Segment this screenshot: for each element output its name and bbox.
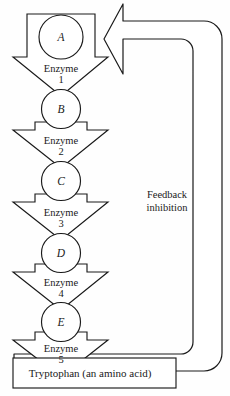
enzyme-1-name: Enzyme	[44, 63, 79, 74]
metabolite-label-b: B	[57, 103, 64, 115]
metabolite-label-a: A	[56, 31, 65, 43]
metabolite-label-c: C	[57, 175, 65, 187]
metabolite-label-e: E	[56, 316, 64, 328]
enzyme-2-name: Enzyme	[44, 135, 79, 146]
tryptophan-label: Tryptophan (an amino acid)	[29, 367, 152, 380]
pathway-svg-canvas: A B C D E Enzyme 1 Enzyme 2 Enzyme 3 Enz…	[0, 0, 230, 396]
enzyme-5-number: 5	[58, 354, 63, 365]
enzyme-3-name: Enzyme	[44, 207, 79, 218]
metabolite-label-d: D	[56, 247, 66, 259]
enzyme-3-number: 3	[58, 218, 63, 229]
enzyme-4-name: Enzyme	[44, 277, 79, 288]
pathway-diagram: A B C D E Enzyme 1 Enzyme 2 Enzyme 3 Enz…	[0, 0, 230, 396]
enzyme-4-number: 4	[58, 288, 64, 299]
enzyme-1-number: 1	[58, 74, 63, 85]
feedback-label-line2: inhibition	[147, 202, 189, 213]
feedback-label-line1: Feedback	[147, 189, 188, 200]
enzyme-2-number: 2	[58, 146, 63, 157]
enzyme-5-name: Enzyme	[44, 343, 79, 354]
